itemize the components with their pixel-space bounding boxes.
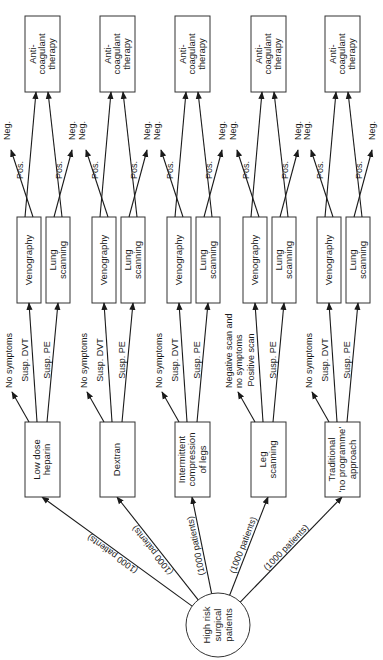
to-venography-arrow	[329, 303, 337, 422]
positive-label: Pos.	[54, 161, 64, 179]
venography-label: Venography	[249, 234, 260, 285]
no-symptoms-arrow	[162, 392, 179, 422]
positive-label: Pos.	[280, 161, 290, 179]
negative-label: Neg.	[142, 121, 152, 140]
patients-count-label: (1000 patients)	[261, 522, 310, 572]
diagram-canvas: High risksurgicalpatients(1000 patients)…	[0, 0, 383, 660]
branch-pe-label: Susp. PE	[342, 341, 352, 379]
negative-label: Neg.	[2, 121, 12, 140]
branch-dvt-label: Susp. DVT	[20, 338, 30, 382]
venography-label: Venography	[173, 234, 184, 285]
flow-diagram: High risksurgicalpatients(1000 patients)…	[0, 0, 383, 660]
branch-dvt-label: Positive scan	[246, 333, 256, 386]
negative-label: Neg.	[367, 121, 377, 140]
patients-count-label: (1000 patients)	[185, 515, 207, 576]
to-venography-arrow	[104, 303, 112, 422]
negative-label: Neg.	[302, 121, 312, 140]
negative-label: Neg.	[228, 121, 238, 140]
root-to-strategy-arrow	[230, 497, 268, 595]
root-to-strategy-arrow	[240, 497, 342, 602]
strategy-label: Dextran	[111, 443, 122, 476]
patients-count-label: (1000 patients)	[85, 532, 139, 575]
no-symptoms-arrow	[12, 392, 29, 422]
negative-label: Neg.	[77, 121, 87, 140]
lung-positive-arrow	[123, 92, 137, 217]
negative-label: Neg.	[67, 121, 77, 140]
venography-label: Venography	[98, 234, 109, 285]
no-symptoms-arrow	[238, 392, 255, 422]
negative-label: Neg.	[217, 121, 227, 140]
branch-pe-label: Susp. PE	[268, 341, 278, 379]
to-venography-arrow	[255, 303, 263, 422]
venography-label: Venography	[323, 234, 334, 285]
negative-label: Neg.	[152, 121, 162, 140]
lung-positive-arrow	[274, 92, 288, 217]
strategy-label: Low doseheparin	[31, 439, 53, 480]
branch-pe-label: Susp. PE	[192, 341, 202, 379]
no-symptoms-arrow	[87, 392, 104, 422]
no-symptoms-label: No symptoms	[154, 332, 164, 388]
branch-pe-label: Susp. PE	[117, 341, 127, 379]
to-venography-arrow	[179, 303, 187, 422]
positive-label: Pos.	[204, 161, 214, 179]
branch-pe-label: Susp. PE	[42, 341, 52, 379]
branch-dvt-label: Susp. DVT	[170, 338, 180, 382]
no-symptoms-label: No symptoms	[79, 332, 89, 388]
branch-dvt-label: Susp. DVT	[320, 338, 330, 382]
branch-dvt-label: Susp. DVT	[95, 338, 105, 382]
no-symptoms-label: No symptoms	[304, 332, 314, 388]
no-symptoms-label: No symptoms	[4, 332, 14, 388]
positive-label: Pos.	[354, 161, 364, 179]
patients-count-label: (1000 patients)	[227, 515, 258, 575]
positive-label: Pos.	[129, 161, 139, 179]
lung-positive-arrow	[198, 92, 212, 217]
root-node-label: High risksurgicalpatients	[201, 606, 234, 643]
root-to-strategy-arrow	[117, 497, 198, 600]
lung-positive-arrow	[48, 92, 62, 217]
to-venography-arrow	[29, 303, 37, 422]
lung-positive-arrow	[348, 92, 362, 217]
no-symptoms-label: Negative scan andno symptoms	[224, 313, 244, 388]
no-symptoms-arrow	[312, 392, 329, 422]
venography-label: Venography	[23, 234, 34, 285]
